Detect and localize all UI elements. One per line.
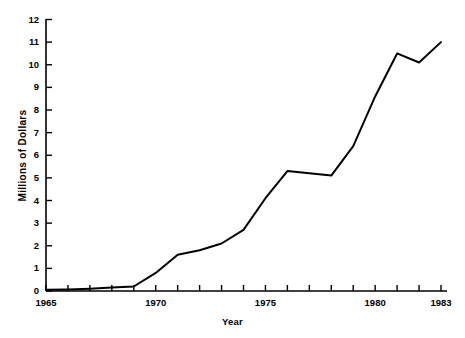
x-tick-label: 1983 bbox=[421, 297, 461, 308]
x-tick-label: 1965 bbox=[26, 297, 66, 308]
data-series-line bbox=[46, 42, 441, 290]
x-tick-label: 1970 bbox=[136, 297, 176, 308]
x-axis-title: Year bbox=[0, 316, 465, 327]
y-tick-label: 3 bbox=[15, 217, 39, 228]
x-tick-label: 1980 bbox=[355, 297, 395, 308]
x-tick-label: 1975 bbox=[245, 297, 285, 308]
y-tick-label: 9 bbox=[15, 81, 39, 92]
y-tick-label: 10 bbox=[15, 59, 39, 70]
y-tick-label: 2 bbox=[15, 240, 39, 251]
axes bbox=[46, 19, 447, 291]
y-tick-label: 11 bbox=[15, 36, 39, 47]
y-tick-label: 1 bbox=[15, 262, 39, 273]
y-tick-label: 12 bbox=[15, 14, 39, 25]
chart-figure: 0123456789101112 19651970197519801983 Mi… bbox=[0, 0, 465, 338]
line-chart-plot bbox=[0, 0, 465, 338]
y-axis-title: Millions of Dollars bbox=[17, 101, 28, 211]
y-axis-ticks bbox=[46, 20, 52, 292]
y-tick-label: 0 bbox=[15, 285, 39, 296]
